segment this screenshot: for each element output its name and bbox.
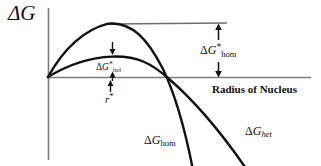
delta-glyph: Δ (200, 43, 208, 57)
dg-hom-star-label: ΔG*hom (200, 42, 237, 58)
curve-dg-het (48, 57, 245, 166)
g-glyph: G (102, 62, 109, 72)
r-star-label: r* (105, 92, 114, 105)
hom-subscript: hom (221, 49, 236, 59)
dg-het-star-label: ΔG*het (96, 61, 121, 74)
nucleation-free-energy-figure: ΔG Radius of Nucleus ΔG*hom ΔG*het r* ΔG… (0, 0, 321, 166)
curve-label-dg-hom: ΔGhom (144, 134, 176, 148)
curve-label-dg-het: ΔGhet (245, 125, 272, 139)
asterisk-glyph: * (109, 91, 113, 101)
hom-peak-reference-line (110, 23, 227, 24)
het-subscript: het (113, 66, 121, 73)
y-axis-label: ΔG (8, 3, 36, 24)
delta-glyph: Δ (144, 133, 152, 147)
delta-glyph: Δ (245, 124, 253, 138)
x-axis-label: Radius of Nucleus (212, 84, 297, 95)
hom-subscript: hom (160, 138, 175, 148)
het-subscript: het (261, 129, 272, 139)
